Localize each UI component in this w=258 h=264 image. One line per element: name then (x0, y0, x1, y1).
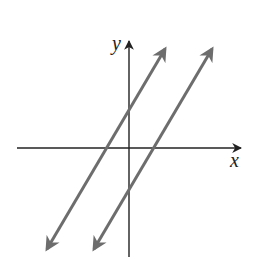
coordinate-diagram: y x (0, 0, 258, 264)
y-axis-label: y (110, 32, 121, 55)
line-2 (94, 49, 212, 249)
x-axis-label: x (229, 149, 239, 171)
line-1 (47, 49, 165, 249)
